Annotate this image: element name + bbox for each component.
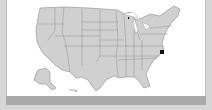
contiguous-us — [36, 6, 180, 91]
alaska — [34, 68, 56, 90]
footer-bar — [6, 96, 206, 105]
us-map — [0, 0, 212, 110]
hawaii — [69, 89, 77, 92]
highlighted-state — [160, 50, 164, 54]
marker — [128, 17, 129, 19]
